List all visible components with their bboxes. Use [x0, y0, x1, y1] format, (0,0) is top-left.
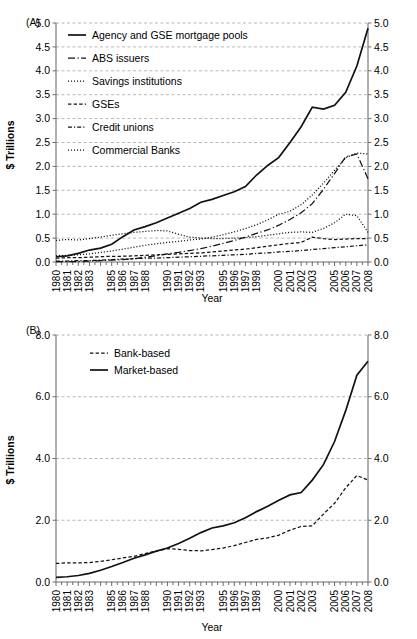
y-tick-label-right: 2.0: [374, 514, 389, 526]
y-tick-label-right: 0.0: [374, 256, 389, 268]
legend-label: ABS issuers: [92, 52, 149, 64]
x-tick-label: 2006: [340, 590, 351, 613]
x-tick-label: 1985: [106, 270, 117, 293]
y-tick-label-right: 4.5: [374, 41, 389, 53]
x-tick-label: 1991: [173, 590, 184, 613]
panel-b-y-tick-labels: 0.02.04.06.08.0: [35, 329, 50, 588]
x-tick-label: 2003: [307, 590, 318, 613]
y-tick-label: 4.5: [35, 41, 50, 53]
x-tick-label: 1991: [173, 270, 184, 293]
y-tick-label-right: 1.5: [374, 184, 389, 196]
x-tick-label: 2003: [307, 270, 318, 293]
y-tick-label: 4.0: [35, 452, 50, 464]
x-tick-label: 1992: [184, 590, 195, 613]
panel-b-x-axis-title: Year: [201, 621, 223, 633]
y-tick-label-right: 6.0: [374, 390, 389, 402]
panel-a-svg: 0.00.51.01.52.02.53.03.54.04.55.0 0.00.5…: [0, 0, 417, 310]
x-tick-label: 1990: [162, 590, 173, 613]
x-tick-label: 2007: [351, 590, 362, 613]
x-tick-label: 1988: [140, 270, 151, 293]
y-tick-label: 3.0: [35, 112, 50, 124]
panel-b-series-group: [56, 361, 368, 577]
x-tick-label: 1995: [218, 590, 229, 613]
panel-a: 0.00.51.01.52.02.53.03.54.04.55.0 0.00.5…: [0, 0, 417, 310]
x-tick-label: 2006: [340, 270, 351, 293]
y-tick-label-right: 2.0: [374, 160, 389, 172]
x-tick-label: 1995: [218, 270, 229, 293]
y-tick-label-right: 3.5: [374, 88, 389, 100]
legend-label: Agency and GSE mortgage pools: [92, 29, 248, 41]
x-tick-label: 2002: [296, 270, 307, 293]
x-tick-label: 1997: [240, 590, 251, 613]
x-tick-label: 1998: [251, 270, 262, 293]
x-tick-label: 1985: [106, 590, 117, 613]
y-tick-label: 3.5: [35, 88, 50, 100]
panel-b-gridlines: [56, 335, 368, 520]
x-tick-label: 1996: [229, 270, 240, 293]
x-tick-label: 1982: [73, 590, 84, 613]
x-tick-label: 2001: [285, 270, 296, 293]
panel-b-ticks: [53, 335, 372, 586]
x-tick-label: 1987: [129, 270, 140, 293]
panel-a-right-y-tick-labels: 0.00.51.01.52.02.53.03.54.04.55.0: [374, 17, 389, 268]
y-tick-label: 2.0: [35, 514, 50, 526]
series-line: [56, 475, 368, 563]
x-tick-label: 1992: [184, 270, 195, 293]
x-tick-label: 1987: [129, 590, 140, 613]
panel-b-x-tick-labels: 1980198119821983198519861987198819901991…: [51, 590, 374, 613]
x-tick-label: 2000: [273, 270, 284, 293]
legend-label: Credit unions: [92, 121, 154, 133]
x-tick-label: 1993: [195, 590, 206, 613]
y-tick-label: 0.0: [35, 576, 50, 588]
panel-b-legend: Bank-basedMarket-based: [90, 347, 178, 376]
legend-label: Savings institutions: [92, 75, 182, 87]
legend-label: Market-based: [114, 364, 178, 376]
x-tick-label: 1986: [117, 270, 128, 293]
x-tick-label: 2008: [363, 270, 374, 293]
y-tick-label-right: 8.0: [374, 329, 389, 341]
x-tick-label: 1981: [62, 270, 73, 293]
x-tick-label: 1993: [195, 270, 206, 293]
legend-label: GSEs: [92, 98, 119, 110]
panel-b-label: (B): [26, 324, 40, 336]
y-tick-label-right: 3.0: [374, 112, 389, 124]
x-tick-label: 2007: [351, 270, 362, 293]
x-tick-label: 2008: [363, 590, 374, 613]
x-tick-label: 2001: [285, 590, 296, 613]
series-line: [56, 214, 368, 240]
panel-a-x-tick-labels: 1980198119821983198519861987198819901991…: [51, 270, 374, 293]
x-tick-label: 1986: [117, 590, 128, 613]
x-tick-label: 1996: [229, 590, 240, 613]
panel-b-right-y-tick-labels: 0.02.04.06.08.0: [374, 329, 389, 588]
y-tick-label: 0.0: [35, 256, 50, 268]
panel-a-label: (A): [26, 16, 40, 28]
x-tick-label: 1983: [84, 270, 95, 293]
x-tick-label: 1988: [140, 590, 151, 613]
x-tick-label: 1982: [73, 270, 84, 293]
legend-label: Commercial Banks: [92, 144, 180, 156]
panel-a-y-axis-title: $ Trillions: [4, 120, 16, 169]
panel-b: 0.02.04.06.08.0 0.02.04.06.08.0 19801981…: [0, 310, 417, 639]
x-tick-label: 1983: [84, 590, 95, 613]
y-tick-label: 6.0: [35, 390, 50, 402]
panel-a-legend: Agency and GSE mortgage poolsABS issuers…: [68, 29, 248, 156]
x-tick-label: 1998: [251, 590, 262, 613]
y-tick-label: 4.0: [35, 64, 50, 76]
y-tick-label: 1.5: [35, 184, 50, 196]
y-tick-label-right: 2.5: [374, 136, 389, 148]
panel-a-y-tick-labels: 0.00.51.01.52.02.53.03.54.04.55.0: [35, 17, 50, 268]
y-tick-label: 2.5: [35, 136, 50, 148]
x-tick-label: 2000: [273, 590, 284, 613]
x-tick-label: 2002: [296, 590, 307, 613]
y-tick-label: 0.5: [35, 232, 50, 244]
y-tick-label-right: 4.0: [374, 452, 389, 464]
panel-b-svg: 0.02.04.06.08.0 0.02.04.06.08.0 19801981…: [0, 310, 417, 639]
x-tick-label: 1980: [51, 590, 62, 613]
y-tick-label: 2.0: [35, 160, 50, 172]
y-tick-label-right: 0.0: [374, 576, 389, 588]
y-tick-label: 1.0: [35, 208, 50, 220]
series-line: [56, 361, 368, 577]
series-line: [56, 154, 368, 262]
panel-a-x-axis-title: Year: [201, 292, 223, 304]
x-tick-label: 1980: [51, 270, 62, 293]
